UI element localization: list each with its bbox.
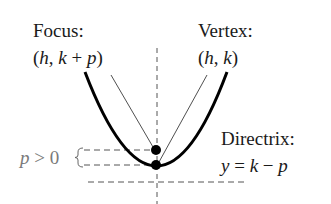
parabola-diagram: Focus: (h, k + p) Vertex: (h, k) Directr… [0,0,331,204]
focus-point [151,145,161,155]
focus-title: Focus: [33,20,84,41]
vertex-leader-line [159,75,207,162]
p-brace [75,148,83,167]
vertex-coordinates: (h, k) [198,47,238,69]
focus-coordinates: (h, k + p) [33,47,103,69]
directrix-title: Directrix: [221,128,295,149]
vertex-title: Vertex: [198,20,253,41]
directrix-equation: y = k − p [219,155,288,176]
p-condition-label: p > 0 [18,147,59,168]
vertex-point [151,160,161,170]
